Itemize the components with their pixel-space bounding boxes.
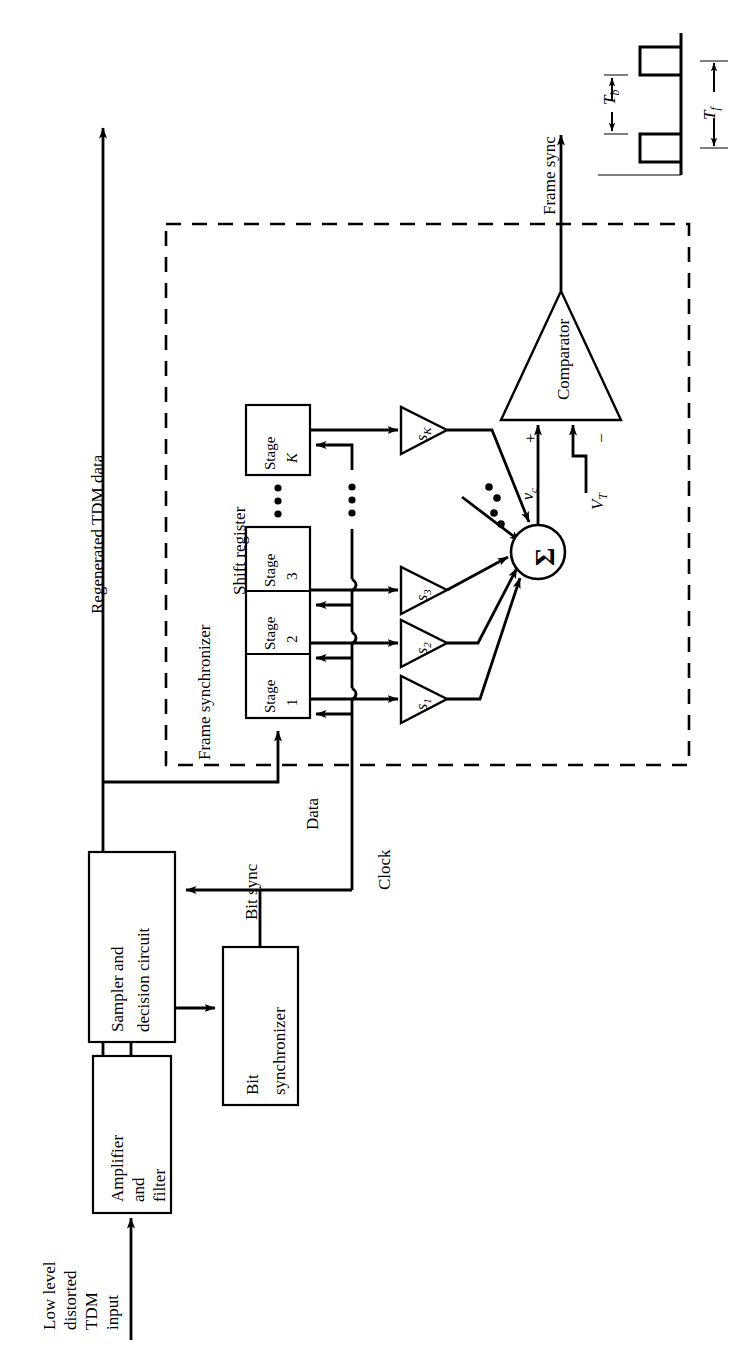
gain-s2-index: 2 xyxy=(421,642,433,647)
sampler-decision-line1: Sampler and xyxy=(108,947,128,1032)
comparator-minus-sign: − xyxy=(592,433,612,443)
frame-synchronizer-boundary xyxy=(166,224,689,765)
tf-label: Tf xyxy=(700,107,722,120)
gain-s3-label: s3 xyxy=(413,589,433,601)
clock-label: Clock xyxy=(375,849,395,890)
vc-symbol: v xyxy=(519,493,536,500)
figure-canvas: Low level distorted TDM input Amplifier … xyxy=(0,0,739,1365)
tdm-input-label-line3: TDM xyxy=(82,1292,102,1330)
summer-symbol: Σ xyxy=(529,548,561,566)
comparator-plus-sign: + xyxy=(521,433,541,443)
gain-s3-index: 3 xyxy=(421,589,433,594)
gain-s2-label: s2 xyxy=(413,642,433,654)
stage-k-label-line1: Stage xyxy=(262,437,279,470)
stage-2-label-line1: Stage xyxy=(262,617,279,650)
stage-1-label-line2: 1 xyxy=(284,699,301,707)
data-path xyxy=(103,731,278,782)
sampler-decision-block xyxy=(89,852,175,1042)
gain-sk-label: sK xyxy=(413,428,433,442)
gain-sk-index: K xyxy=(421,428,433,435)
tdm-input-label-line1: Low level xyxy=(40,1262,60,1330)
tb-symbol: T xyxy=(600,96,619,105)
shift-register-label: Shift register xyxy=(230,507,250,595)
regenerated-tdm-data-label: Regenerated TDM data xyxy=(88,455,108,614)
bit-synchronizer-line2: synchronizer xyxy=(270,1007,290,1095)
gain-sk-symbol: s xyxy=(413,435,430,441)
stage-1-label-line1: Stage xyxy=(262,680,279,713)
gain-s1-symbol: s xyxy=(413,704,430,710)
vt-label: VT xyxy=(588,493,610,510)
vt-line xyxy=(573,425,586,493)
bit-synchronizer-line1: Bit xyxy=(243,1074,263,1095)
tb-sub: b xyxy=(609,90,622,96)
amplifier-filter-line1: Amplifier xyxy=(108,1135,128,1202)
amplifier-filter-line2: and xyxy=(129,1177,149,1202)
vc-sub: c xyxy=(527,488,539,493)
tf-sub: f xyxy=(709,107,722,110)
tdm-input-label-line4: input xyxy=(103,1295,123,1330)
gain-s3-symbol: s xyxy=(413,595,430,601)
tdm-input-label-line2: distorted xyxy=(61,1271,81,1331)
tb-label: Tb xyxy=(600,90,622,105)
vc-label: vc xyxy=(519,488,539,500)
data-label: Data xyxy=(303,798,323,830)
gain-s2-symbol: s xyxy=(413,648,430,654)
gain-s1-label: s1 xyxy=(413,698,433,710)
vt-sub: T xyxy=(597,493,610,499)
gain-s1-index: 1 xyxy=(421,698,433,703)
amplifier-filter-line3: filter xyxy=(150,1169,170,1202)
amplifier-triangles xyxy=(401,407,447,723)
tf-symbol: T xyxy=(700,111,719,120)
stage-3-label-line2: 3 xyxy=(284,573,301,581)
stage-2-label-line2: 2 xyxy=(284,636,301,644)
bit-sync-label: Bit sync xyxy=(242,864,262,920)
frame-synchronizer-label: Frame synchronizer xyxy=(195,625,215,760)
vt-symbol: V xyxy=(588,500,607,510)
sampler-decision-line2: decision circuit xyxy=(134,928,154,1032)
frame-sync-label: Frame sync xyxy=(540,136,560,215)
stage-k-label-line2: K xyxy=(284,453,301,463)
comparator-label: Comparator xyxy=(554,319,574,400)
stage-3-label-line1: Stage xyxy=(262,554,279,587)
